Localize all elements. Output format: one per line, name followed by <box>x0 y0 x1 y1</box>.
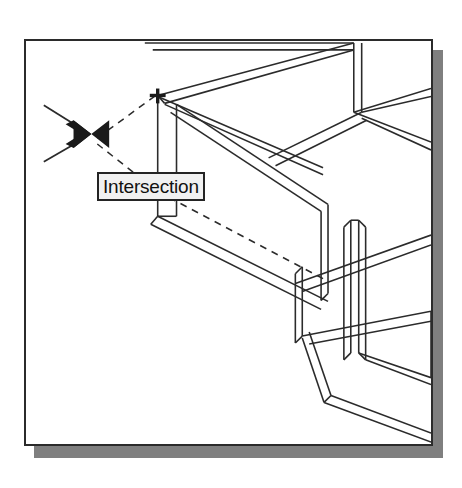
beam-ul-inner <box>165 50 354 103</box>
osnap-tooltip: Intersection <box>97 172 205 201</box>
post-tall-cap-top-r <box>359 220 366 227</box>
dashed-long-diagonal <box>158 192 323 279</box>
plate-small-top <box>295 267 302 274</box>
wireframe-drawing[interactable] <box>26 41 431 444</box>
beam-ul2-outer <box>158 96 323 167</box>
beam-r2-inner <box>362 118 431 150</box>
beam-ul2-inner <box>165 104 323 174</box>
cad-screenshot-root: Intersection <box>0 0 462 488</box>
post-tall-cap-bot-l <box>344 353 351 360</box>
drawing-panel[interactable]: Intersection <box>24 39 433 446</box>
beam-low-cap <box>151 216 158 224</box>
beam-br2-inner <box>331 395 431 433</box>
beam-br-outer <box>302 338 324 402</box>
beam-br2-cap <box>324 395 331 402</box>
beam-br2-outer <box>324 402 431 442</box>
wireframe-geometry <box>145 43 431 442</box>
beam-x1-inner <box>276 120 367 166</box>
beam-rt1-outer <box>295 235 431 284</box>
beam-ul-outer <box>158 43 354 95</box>
beam-br3-inner <box>366 360 431 385</box>
beam-rt2-inner <box>309 321 431 344</box>
beam-rt2-outer <box>302 311 431 336</box>
post-tall-cap-top-l <box>344 220 351 227</box>
beam-r1-outer <box>354 89 431 113</box>
intersection-snap-marker <box>66 120 110 148</box>
beam-x1-outer <box>269 112 362 158</box>
beam-r2-outer <box>354 112 431 142</box>
beam-br3-outer <box>359 353 431 378</box>
plate-small-bottom <box>295 336 302 343</box>
